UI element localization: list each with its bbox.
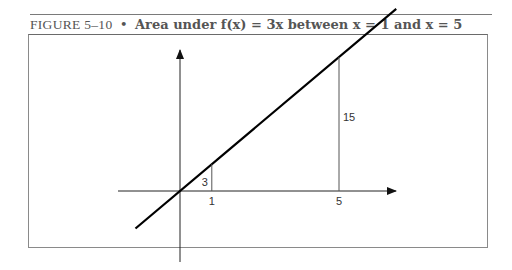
x-tick-label: 1 [209,195,215,207]
function-diagram: 13515 [0,0,512,270]
function-line [135,9,396,229]
height-label: 3 [202,176,208,188]
height-label: 15 [343,111,355,123]
x-tick-label: 5 [336,195,342,207]
